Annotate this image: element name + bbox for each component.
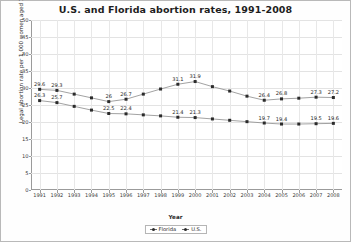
y-tick-label: 10 (22, 153, 29, 159)
series-lines (31, 20, 342, 190)
x-tick-label: 2002 (223, 192, 236, 198)
data-point[interactable] (194, 116, 197, 119)
x-axis-label: Year (1, 214, 350, 220)
data-point[interactable] (263, 99, 266, 102)
data-point[interactable] (125, 112, 128, 115)
x-tick-label: 1996 (120, 192, 133, 198)
x-tick-label: 2003 (241, 192, 254, 198)
y-tick-label: 20 (22, 119, 29, 125)
x-tick-label: 2005 (275, 192, 288, 198)
data-point[interactable] (211, 85, 214, 88)
x-tick-label: 2001 (206, 192, 219, 198)
x-tick-label: 2004 (258, 192, 271, 198)
legend-label-us: U.S. (191, 227, 201, 232)
y-tick-label: 15 (22, 136, 29, 142)
x-tick-label: 1999 (171, 192, 184, 198)
data-point[interactable] (159, 114, 162, 117)
x-tick-label: 2007 (310, 192, 323, 198)
legend-marker-icon (149, 229, 156, 230)
x-tick-label: 2006 (292, 192, 305, 198)
data-point[interactable] (211, 117, 214, 120)
x-tick-label: 1998 (154, 192, 167, 198)
data-point[interactable] (280, 97, 283, 100)
data-point[interactable] (228, 119, 231, 122)
data-point[interactable] (38, 99, 41, 102)
x-tick-label: 1995 (102, 192, 115, 198)
data-point[interactable] (73, 93, 76, 96)
data-point[interactable] (332, 122, 335, 125)
data-point[interactable] (194, 80, 197, 83)
x-tick-label: 1993 (68, 192, 81, 198)
plot-area: 50454035302520151050 1991199219931994199… (31, 20, 342, 190)
legend-item-florida[interactable]: Florida (149, 227, 176, 232)
series-line-us (40, 82, 334, 102)
data-point[interactable] (332, 96, 335, 99)
legend-label-florida: Florida (158, 227, 176, 232)
y-tick-label: 25 (22, 102, 29, 108)
data-point[interactable] (297, 123, 300, 126)
x-tick-label: 1997 (137, 192, 150, 198)
y-tick-label: 35 (22, 68, 29, 74)
x-tick-label: 1994 (85, 192, 98, 198)
x-tick-label: 1991 (33, 192, 46, 198)
y-tick-label: 30 (22, 85, 29, 91)
data-point[interactable] (315, 96, 318, 99)
y-tick-label: 0 (25, 187, 28, 193)
data-point[interactable] (107, 100, 110, 103)
y-tick-label: 5 (25, 170, 28, 176)
legend-marker-icon (182, 229, 189, 230)
data-point[interactable] (159, 88, 162, 91)
data-point[interactable] (142, 93, 145, 96)
chart-legend: Florida U.S. (144, 225, 206, 234)
data-point[interactable] (228, 90, 231, 93)
data-point[interactable] (315, 122, 318, 125)
y-tick-label: 50 (22, 17, 29, 23)
data-point[interactable] (280, 123, 283, 126)
data-point[interactable] (107, 112, 110, 115)
data-point[interactable] (176, 83, 179, 86)
data-point[interactable] (90, 96, 93, 99)
y-tick-label: 40 (22, 51, 29, 57)
data-point[interactable] (38, 88, 41, 91)
data-point[interactable] (125, 98, 128, 101)
series-line-florida (40, 101, 334, 124)
legend-item-us[interactable]: U.S. (182, 227, 201, 232)
data-point[interactable] (90, 109, 93, 112)
y-tick-mark (29, 190, 32, 191)
data-point[interactable] (142, 113, 145, 116)
chart-title: U.S. and Florida abortion rates, 1991-20… (1, 4, 350, 15)
data-point[interactable] (263, 122, 266, 125)
data-point[interactable] (245, 120, 248, 123)
data-point[interactable] (245, 95, 248, 98)
data-point[interactable] (73, 105, 76, 108)
data-point[interactable] (55, 89, 58, 92)
x-tick-label: 2008 (327, 192, 340, 198)
x-tick-label: 1992 (51, 192, 64, 198)
data-point[interactable] (297, 97, 300, 100)
chart-container: U.S. and Florida abortion rates, 1991-20… (0, 0, 351, 242)
data-point[interactable] (176, 116, 179, 119)
data-point[interactable] (55, 101, 58, 104)
x-tick-label: 2000 (189, 192, 202, 198)
y-tick-label: 45 (22, 34, 29, 40)
